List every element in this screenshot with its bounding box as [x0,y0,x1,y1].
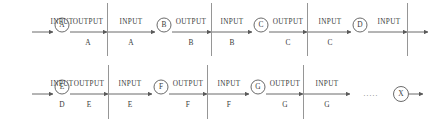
row2-seg2-input-label: INPUT [119,81,142,88]
row1-seg2-input-sublabel: A [128,39,134,46]
row2-seg2-input-sublabel: E [128,101,133,108]
row1-seg2-output-sublabel: B [188,39,193,46]
row1-seg2-input-label: INPUT [120,19,143,26]
row1-node-c-label: C [259,21,264,28]
row2-seg1-output-sublabel: E [87,101,92,108]
row1-seg1-output-label: OUTPUT [73,19,103,26]
row2-seg3-output-sublabel: G [282,101,288,108]
row2-node-g-label: G [255,83,260,90]
row2-seg3-input-label: INPUT [218,81,241,88]
pipeline-flow-diagram: INPUT A OUTPUT A INPUT A B OUTPUT B INPU… [0,0,431,125]
row1-seg2-output-label: OUTPUT [176,19,206,26]
row1-node-b-label: B [162,21,167,28]
row1-seg3-output-sublabel: C [285,39,290,46]
row2-node-f-label: F [159,83,163,90]
row2-seg3-input-sublabel: F [227,101,231,108]
row2-node-e-label: E [60,83,65,90]
row1-node-d-label: D [357,21,362,28]
row2-seg2-output-label: OUTPUT [173,81,203,88]
row2-ellipsis: ..... [363,90,378,97]
row1-seg4-output-label: INPUT [378,19,401,26]
row2-seg3-output-label: OUTPUT [270,81,300,88]
row2-seg1-input-sublabel: D [59,101,65,108]
row2-seg4-input-label: INPUT [316,81,339,88]
row1-node-a-label: A [59,21,64,28]
row2-seg2-output-sublabel: F [186,101,190,108]
row1-seg4-input-sublabel: C [327,39,332,46]
row1-seg1-output-sublabel: A [85,39,91,46]
row1-seg3-input-sublabel: B [229,39,234,46]
row1-seg4-input-label: INPUT [319,19,342,26]
row1-seg3-input-label: INPUT [221,19,244,26]
row2-terminal-node-x-label: X [398,90,403,97]
row1-seg3-output-label: OUTPUT [273,19,303,26]
row2-seg1-output-label: OUTPUT [74,81,104,88]
row2-seg4-input-sublabel: G [324,101,330,108]
